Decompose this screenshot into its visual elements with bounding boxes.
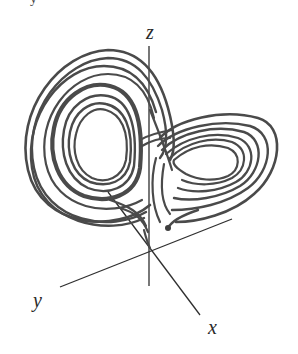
attractor-plot [0, 0, 298, 354]
trajectory-start-point [165, 225, 171, 231]
z-axis-label: z [146, 22, 154, 42]
x-axis-label: x [208, 317, 217, 337]
cut-off-caption-text: y [30, 0, 37, 6]
y-axis-label: y [33, 290, 42, 310]
lorenz-attractor-figure: y [0, 0, 298, 354]
right-lobe [153, 114, 278, 228]
